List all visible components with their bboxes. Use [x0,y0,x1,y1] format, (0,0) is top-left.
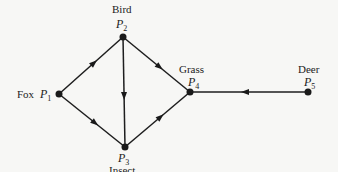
node-symbol-p4: P4 [187,75,199,91]
node-label-deer: Deer [298,63,320,75]
node-symbol-p1: P1 [39,87,51,103]
node-p3 [122,144,129,151]
node-label-insect: Insect [109,164,135,172]
node-label-grass: Grass [179,63,204,75]
arrow-p2-p3-icon [121,92,127,100]
node-p2 [120,34,127,41]
node-label-bird: Bird [112,3,132,15]
food-web-diagram: Fox P1 Bird P2 P3 Insect Grass P4 Deer P… [0,0,338,172]
node-symbol-p2: P2 [115,17,127,33]
node-p1 [56,91,63,98]
node-p4 [187,89,194,96]
node-symbol-p5: P5 [303,75,315,91]
arrow-p5-p4-icon [241,89,249,95]
node-label-fox: Fox [17,88,35,100]
